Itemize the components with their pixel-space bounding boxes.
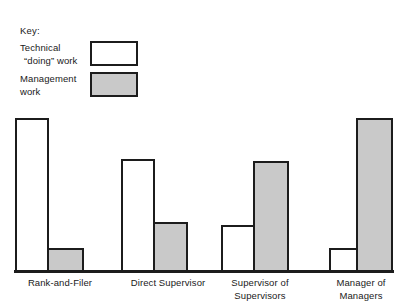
category-label-3-line-1: Managers: [318, 290, 404, 303]
category-label-0: Rank-and-Filer: [10, 277, 110, 290]
bar-gray-7: [356, 118, 393, 272]
baseline-axis: [14, 270, 394, 273]
category-label-2: Supervisor ofSupervisors: [208, 277, 312, 302]
bar-white-4: [221, 225, 255, 272]
bar-white-2: [121, 159, 155, 272]
category-label-3-line-0: Manager of: [318, 277, 404, 290]
bar-gray-1: [47, 248, 84, 272]
category-label-3: Manager ofManagers: [318, 277, 404, 302]
bar-gray-3: [153, 222, 188, 272]
bar-chart-figure: Key: Technical “doing” work Management w…: [0, 0, 408, 306]
category-label-0-line-0: Rank-and-Filer: [10, 277, 110, 290]
bar-gray-5: [253, 161, 289, 272]
bar-white-0: [15, 118, 49, 272]
category-label-2-line-1: Supervisors: [208, 290, 312, 303]
category-label-2-line-0: Supervisor of: [208, 277, 312, 290]
plot-area: Rank-and-FilerDirect SupervisorSuperviso…: [0, 0, 408, 306]
bar-white-6: [329, 248, 358, 272]
